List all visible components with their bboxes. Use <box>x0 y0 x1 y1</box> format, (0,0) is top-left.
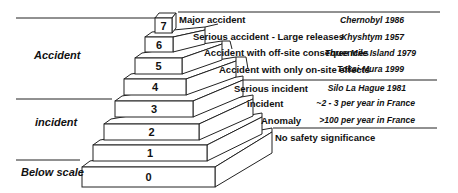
level-2-example: ~2 - 3 per year in France <box>316 98 415 108</box>
step-3-number: 3 <box>151 103 157 115</box>
step-1-number: 1 <box>147 147 153 159</box>
step-0-number: 0 <box>145 171 151 183</box>
step-6-number: 6 <box>156 39 162 51</box>
level-0-description: No safety significance <box>275 132 375 143</box>
step-4-number: 4 <box>152 81 159 93</box>
category-below-scale: Below scale <box>21 166 84 178</box>
step-7-number: 7 <box>160 20 166 32</box>
level-2-description: incident <box>247 98 283 109</box>
category-incident: incident <box>35 116 77 128</box>
level-7-description: Major accident <box>179 14 246 25</box>
level-3-example: Silo La Hague 1981 <box>328 83 406 93</box>
level-6-description: Serious accident - Large releases <box>193 31 344 42</box>
pyramid-graphic: 7 6 5 4 3 2 1 0 <box>0 0 458 193</box>
level-7-example: Chernobyl 1986 <box>340 15 404 25</box>
level-1-description: Anomaly <box>261 115 301 126</box>
level-4-example: Tokai-Mura 1999 <box>337 64 404 74</box>
level-6-example: Khyshtym 1957 <box>341 32 404 42</box>
step-2-number: 2 <box>148 126 154 138</box>
level-3-description: Serious incident <box>234 83 308 94</box>
level-1-example: >100 per year in France <box>319 115 415 125</box>
step-5-number: 5 <box>155 60 161 72</box>
level-5-example: Three Mile Island 1979 <box>325 48 416 58</box>
ines-pyramid-diagram: 7 6 5 4 3 2 1 0 Accident incident Below … <box>0 0 458 193</box>
category-accident: Accident <box>34 49 80 61</box>
